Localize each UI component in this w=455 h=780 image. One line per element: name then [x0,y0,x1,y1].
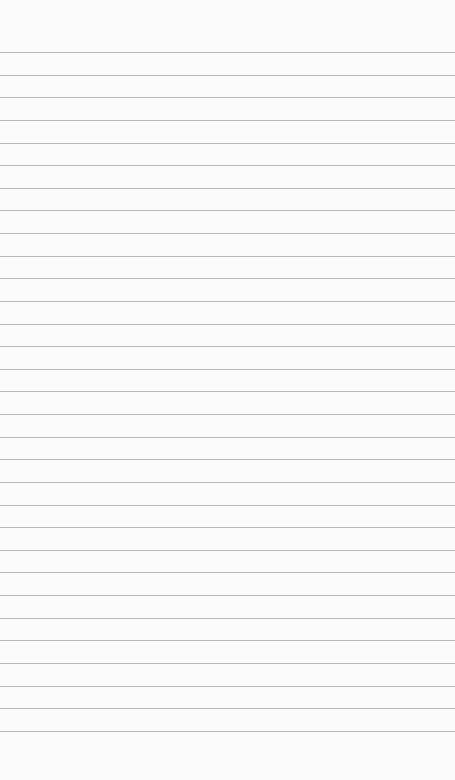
ruled-line [0,550,455,551]
ruled-line [0,459,455,460]
ruled-line [0,52,455,53]
ruled-line [0,188,455,189]
ruled-line [0,663,455,664]
ruled-line [0,437,455,438]
ruled-line [0,482,455,483]
ruled-line [0,256,455,257]
ruled-line [0,686,455,687]
ruled-line [0,572,455,573]
ruled-line [0,369,455,370]
ruled-line [0,527,455,528]
ruled-line [0,210,455,211]
ruled-line [0,120,455,121]
ruled-line [0,278,455,279]
ruled-line [0,165,455,166]
ruled-line [0,595,455,596]
ruled-line [0,346,455,347]
ruled-line [0,640,455,641]
lined-paper [0,0,455,780]
ruled-line [0,708,455,709]
ruled-line [0,618,455,619]
ruled-line [0,233,455,234]
ruled-line [0,97,455,98]
ruled-line [0,414,455,415]
ruled-line [0,505,455,506]
ruled-line [0,391,455,392]
ruled-line [0,75,455,76]
ruled-line [0,301,455,302]
ruled-line [0,324,455,325]
ruled-line [0,143,455,144]
ruled-line [0,731,455,732]
